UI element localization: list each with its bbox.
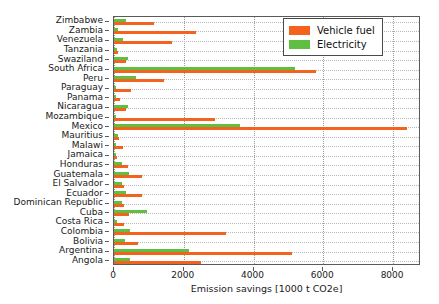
bar-group bbox=[114, 220, 419, 226]
y-axis-tick bbox=[105, 231, 109, 232]
y-axis-category-label: Angola bbox=[72, 256, 103, 265]
y-axis-tick bbox=[105, 203, 109, 204]
y-axis-tick bbox=[105, 174, 109, 175]
y-axis-category-label: South Africa bbox=[48, 64, 103, 73]
chart-legend: Vehicle fuelElectricity bbox=[283, 18, 383, 56]
bar-vehicle-fuel bbox=[114, 223, 124, 226]
bar-vehicle-fuel bbox=[114, 98, 120, 101]
y-axis-tick bbox=[105, 126, 109, 127]
y-axis-category-label: El Salvador bbox=[52, 179, 103, 188]
x-axis-labels: 02000400060008000 bbox=[113, 267, 420, 283]
y-axis-category-label: Argentina bbox=[59, 246, 103, 255]
legend-label: Electricity bbox=[317, 39, 367, 50]
y-axis-category-label: Honduras bbox=[60, 160, 103, 169]
legend-color-swatch bbox=[289, 26, 310, 35]
x-axis-tick-label: 2000 bbox=[171, 270, 194, 280]
y-axis-category-label: Colombia bbox=[61, 227, 103, 236]
x-axis-tick-label: 0 bbox=[110, 270, 116, 280]
y-axis-tick bbox=[105, 241, 109, 242]
bar-vehicle-fuel bbox=[114, 89, 131, 92]
y-axis-tick bbox=[105, 260, 109, 261]
bar-vehicle-fuel bbox=[114, 31, 196, 34]
bar-vehicle-fuel bbox=[114, 242, 138, 245]
bar-group bbox=[114, 143, 419, 149]
bar-vehicle-fuel bbox=[114, 127, 407, 130]
bar-group bbox=[114, 76, 419, 82]
bar-vehicle-fuel bbox=[114, 232, 226, 235]
bar-vehicle-fuel bbox=[114, 22, 154, 25]
bar-vehicle-fuel bbox=[114, 194, 142, 197]
bar-vehicle-fuel bbox=[114, 51, 118, 54]
y-axis-tick bbox=[105, 21, 109, 22]
bar-group bbox=[114, 258, 419, 264]
bar-group bbox=[114, 124, 419, 130]
y-axis-tick bbox=[105, 88, 109, 89]
y-axis-category-label: Mozambique bbox=[46, 112, 103, 121]
bar-group bbox=[114, 229, 419, 235]
y-axis-labels: ZimbabweZambiaVenezuelaTanzaniaSwaziland… bbox=[0, 16, 109, 265]
y-axis-tick bbox=[105, 136, 109, 137]
y-axis-tick bbox=[105, 107, 109, 108]
bar-group bbox=[114, 172, 419, 178]
bar-group bbox=[114, 210, 419, 216]
bar-vehicle-fuel bbox=[114, 118, 215, 121]
x-axis-title: Emission savings [1000 t CO2e] bbox=[113, 283, 420, 294]
bar-vehicle-fuel bbox=[114, 108, 126, 111]
legend-color-swatch bbox=[289, 40, 310, 49]
y-axis-category-label: Paraguay bbox=[61, 83, 103, 92]
y-axis-tick bbox=[105, 40, 109, 41]
bar-group bbox=[114, 239, 419, 245]
y-axis-tick bbox=[105, 78, 109, 79]
y-axis-tick bbox=[105, 117, 109, 118]
bar-group bbox=[114, 162, 419, 168]
y-axis-tick bbox=[105, 145, 109, 146]
bar-group bbox=[114, 249, 419, 255]
bar-vehicle-fuel bbox=[114, 165, 128, 168]
bar-vehicle-fuel bbox=[114, 137, 119, 140]
bar-group bbox=[114, 86, 419, 92]
y-axis-tick bbox=[105, 155, 109, 156]
y-axis-tick bbox=[105, 184, 109, 185]
legend-label: Vehicle fuel bbox=[317, 25, 375, 36]
y-axis-tick bbox=[105, 251, 109, 252]
bar-group bbox=[114, 57, 419, 63]
bar-vehicle-fuel bbox=[114, 41, 172, 44]
bar-vehicle-fuel bbox=[114, 60, 126, 63]
x-axis-tick-label: 8000 bbox=[381, 270, 404, 280]
bar-group bbox=[114, 115, 419, 121]
y-axis-category-label: Tanzania bbox=[64, 45, 103, 54]
y-axis-tick bbox=[105, 193, 109, 194]
bar-group bbox=[114, 201, 419, 207]
bar-vehicle-fuel bbox=[114, 146, 123, 149]
bar-vehicle-fuel bbox=[114, 175, 142, 178]
bar-vehicle-fuel bbox=[114, 252, 292, 255]
bar-vehicle-fuel bbox=[114, 156, 117, 159]
bar-vehicle-fuel bbox=[114, 261, 201, 264]
y-axis-tick bbox=[105, 212, 109, 213]
legend-item: Electricity bbox=[289, 37, 375, 51]
y-axis-category-label: Jamaica bbox=[68, 150, 103, 159]
bar-vehicle-fuel bbox=[114, 213, 129, 216]
emission-savings-bar-chart: ZimbabweZambiaVenezuelaTanzaniaSwaziland… bbox=[0, 0, 439, 304]
y-axis-category-label: Mauritius bbox=[61, 131, 103, 140]
x-axis-tick-label: 4000 bbox=[241, 270, 264, 280]
bar-group bbox=[114, 182, 419, 188]
bar-vehicle-fuel bbox=[114, 185, 124, 188]
y-axis-tick bbox=[105, 97, 109, 98]
y-axis-tick bbox=[105, 222, 109, 223]
bar-group bbox=[114, 95, 419, 101]
bar-group bbox=[114, 105, 419, 111]
bar-vehicle-fuel bbox=[114, 79, 164, 82]
y-axis-tick bbox=[105, 69, 109, 70]
bar-vehicle-fuel bbox=[114, 204, 124, 207]
y-axis-tick bbox=[105, 30, 109, 31]
y-axis-category-label: Zimbabwe bbox=[56, 16, 103, 25]
bar-group bbox=[114, 134, 419, 140]
legend-item: Vehicle fuel bbox=[289, 23, 375, 37]
y-axis-tick bbox=[105, 164, 109, 165]
bar-group bbox=[114, 191, 419, 197]
bar-group bbox=[114, 67, 419, 73]
y-axis-tick bbox=[105, 50, 109, 51]
bar-vehicle-fuel bbox=[114, 70, 316, 73]
y-axis-category-label: Dominican Republic bbox=[14, 198, 103, 207]
